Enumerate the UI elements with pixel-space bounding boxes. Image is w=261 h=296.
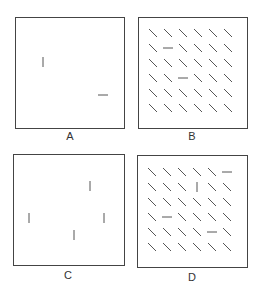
line-mark (179, 59, 187, 67)
line-mark (148, 243, 156, 251)
line-mark (163, 198, 171, 206)
line-mark (163, 228, 171, 236)
line-mark (194, 104, 202, 112)
line-mark (224, 29, 232, 37)
line-mark (148, 198, 156, 206)
line-mark (193, 198, 201, 206)
line-mark (179, 104, 187, 112)
line-mark (148, 228, 156, 236)
line-mark (208, 213, 216, 221)
line-mark (178, 198, 186, 206)
line-mark (224, 104, 232, 112)
line-mark (149, 44, 157, 52)
line-mark (148, 213, 156, 221)
line-mark (223, 228, 231, 236)
line-mark (163, 243, 171, 251)
line-mark (149, 59, 157, 67)
line-mark (163, 168, 171, 176)
line-mark (193, 243, 201, 251)
line-mark (224, 59, 232, 67)
line-mark (164, 74, 172, 82)
line-mark (178, 243, 186, 251)
line-mark (164, 59, 172, 67)
line-mark (224, 89, 232, 97)
line-mark (209, 104, 217, 112)
line-mark (223, 198, 231, 206)
line-mark (178, 228, 186, 236)
marks-layer (0, 0, 261, 296)
line-mark (149, 29, 157, 37)
line-mark (208, 183, 216, 191)
line-mark (148, 183, 156, 191)
line-mark (194, 29, 202, 37)
line-mark (209, 44, 217, 52)
line-mark (208, 168, 216, 176)
line-mark (224, 74, 232, 82)
line-mark (194, 74, 202, 82)
line-mark (193, 168, 201, 176)
line-mark (208, 243, 216, 251)
line-mark (194, 89, 202, 97)
line-mark (223, 243, 231, 251)
line-mark (179, 29, 187, 37)
line-mark (194, 59, 202, 67)
line-mark (178, 183, 186, 191)
line-mark (178, 213, 186, 221)
line-mark (179, 89, 187, 97)
line-mark (179, 44, 187, 52)
line-mark (209, 74, 217, 82)
line-mark (149, 89, 157, 97)
line-mark (208, 198, 216, 206)
line-mark (148, 168, 156, 176)
line-mark (163, 183, 171, 191)
line-mark (149, 74, 157, 82)
line-mark (178, 168, 186, 176)
line-mark (224, 44, 232, 52)
line-mark (193, 228, 201, 236)
line-mark (209, 29, 217, 37)
line-mark (164, 104, 172, 112)
line-mark (223, 183, 231, 191)
line-mark (149, 104, 157, 112)
line-mark (209, 89, 217, 97)
line-mark (223, 213, 231, 221)
line-mark (194, 44, 202, 52)
line-mark (209, 59, 217, 67)
line-mark (164, 29, 172, 37)
line-mark (164, 89, 172, 97)
line-mark (193, 213, 201, 221)
